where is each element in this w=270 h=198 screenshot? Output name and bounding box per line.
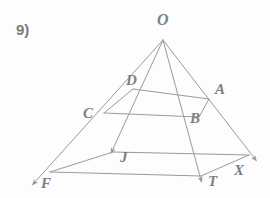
segment-AB: [199, 99, 209, 117]
vertex-label-j: J: [120, 150, 128, 165]
segment-BC: [104, 113, 199, 117]
vertex-label-d: D: [126, 73, 137, 88]
ray-OJ: [112, 40, 163, 151]
geometry-figure: 9) O D A C B J F T X: [0, 0, 270, 198]
vertex-label-a: A: [215, 82, 225, 97]
ray-OF: [34, 40, 163, 183]
segment-DA: [133, 89, 209, 99]
vertex-label-c: C: [83, 106, 93, 121]
vertex-label-x: X: [234, 163, 244, 178]
segment-JX: [113, 152, 249, 155]
pyramid-diagram: [0, 0, 270, 198]
vertex-label-o: O: [157, 12, 169, 28]
vertex-label-f: F: [41, 176, 51, 191]
vertex-label-b: B: [190, 111, 200, 126]
vertex-label-t: T: [208, 174, 217, 189]
segment-TF: [50, 172, 201, 176]
